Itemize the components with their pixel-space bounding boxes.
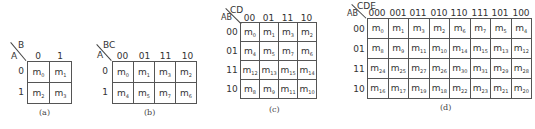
col-label: 000 xyxy=(367,8,387,18)
cell: m12 xyxy=(511,39,532,59)
cell: m9 xyxy=(388,39,409,59)
row-variable: AB xyxy=(347,9,358,18)
cell: m18 xyxy=(429,79,450,99)
cell: m31 xyxy=(470,59,491,79)
cell: m21 xyxy=(491,79,512,99)
col-label: 010 xyxy=(429,8,449,18)
cell: m30 xyxy=(450,59,471,79)
row-label: 10 xyxy=(352,84,366,94)
cell: m24 xyxy=(368,59,389,79)
row-label: 11 xyxy=(352,64,366,74)
col-label: 100 xyxy=(511,8,531,18)
cell: m6 xyxy=(450,19,471,39)
cell: m27 xyxy=(409,59,430,79)
col-label: 001 xyxy=(388,8,408,18)
cell: m22 xyxy=(450,79,471,99)
cell: m2 xyxy=(429,19,450,39)
cell: m1 xyxy=(388,19,409,39)
col-label: 101 xyxy=(490,8,510,18)
col-label: 111 xyxy=(470,8,490,18)
kmap-grid: m0 m1 m3 m2 m6 m7 m5 m4 m8 m9 m11 m10 m1… xyxy=(367,18,532,99)
cell: m29 xyxy=(491,59,512,79)
cell: m25 xyxy=(388,59,409,79)
cell: m10 xyxy=(429,39,450,59)
kmap-d: CDE AB 000 001 011 010 110 111 101 100 0… xyxy=(0,0,535,129)
cell: m11 xyxy=(409,39,430,59)
cell: m17 xyxy=(388,79,409,99)
cell: m0 xyxy=(368,19,389,39)
cell: m20 xyxy=(511,79,532,99)
cell: m5 xyxy=(491,19,512,39)
cell: m16 xyxy=(368,79,389,99)
cell: m7 xyxy=(470,19,491,39)
cell: m26 xyxy=(429,59,450,79)
row-label: 00 xyxy=(352,24,366,34)
cell: m23 xyxy=(470,79,491,99)
cell: m15 xyxy=(470,39,491,59)
cell: m19 xyxy=(409,79,430,99)
col-label: 110 xyxy=(449,8,469,18)
row-label: 01 xyxy=(352,44,366,54)
cell: m28 xyxy=(511,59,532,79)
cell: m4 xyxy=(511,19,532,39)
cell: m3 xyxy=(409,19,430,39)
col-label: 011 xyxy=(408,8,428,18)
cell: m14 xyxy=(450,39,471,59)
cell: m8 xyxy=(368,39,389,59)
cell: m13 xyxy=(491,39,512,59)
caption: (d) xyxy=(440,103,451,112)
